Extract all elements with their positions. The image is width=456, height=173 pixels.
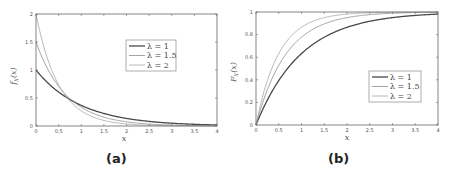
y-tick-label: 0: [30, 123, 33, 129]
x-tick-label: 3: [170, 128, 173, 134]
x-tick-label: 2.5: [366, 127, 374, 133]
chart-b-curves: [256, 12, 438, 125]
x-tick-label: 3: [391, 127, 394, 133]
chart-b-ylabel: FX(x): [229, 62, 239, 83]
y-tick-label: 1: [30, 67, 33, 73]
x-tick-label: 4: [436, 127, 439, 133]
chart-b-xlabel: x: [345, 133, 350, 142]
x-tick-label: 0.5: [275, 127, 283, 133]
x-tick-label: 2.5: [145, 128, 153, 134]
y-tick-label: 0.5: [25, 95, 33, 101]
legend-entry: λ = 1.5: [147, 51, 177, 60]
y-tick-label: 2: [30, 11, 33, 17]
y-tick-label: 0: [250, 122, 253, 128]
caption-b: (b): [328, 151, 349, 166]
y-tick-label: 1.5: [25, 39, 33, 45]
y-tick-label: 0.6: [245, 54, 253, 60]
legend-entry: λ = 2: [147, 61, 169, 70]
chart-a-ticks: 00.511.522.533.5400.511.52: [25, 11, 219, 134]
x-tick-label: 3.5: [190, 128, 198, 134]
curve-1_5: [256, 12, 438, 125]
x-tick-label: 1: [300, 127, 303, 133]
curve-1: [36, 70, 217, 125]
x-tick-label: 0: [254, 127, 257, 133]
chart-b-legend: λ = 1λ = 1.5λ = 2: [369, 71, 421, 102]
x-tick-label: 3.5: [411, 127, 419, 133]
chart-a: 00.511.522.533.5400.511.52 fX(x) x λ = 1…: [9, 11, 219, 143]
legend-entry: λ = 2: [390, 92, 412, 101]
figure-canvas: 00.511.522.533.5400.511.52 fX(x) x λ = 1…: [0, 0, 456, 173]
legend-entry: λ = 1: [390, 73, 412, 82]
legend-entry: λ = 1.5: [390, 82, 420, 91]
chart-a-xlabel: x: [122, 134, 127, 143]
curve-1: [256, 14, 438, 125]
curve-2: [256, 12, 438, 125]
chart-b: 00.511.522.533.5400.20.40.60.81 FX(x) x …: [229, 9, 440, 142]
x-tick-label: 0: [34, 128, 37, 134]
chart-a-ylabel: fX(x): [9, 67, 19, 85]
y-tick-label: 0.4: [245, 77, 253, 83]
x-tick-label: 0.5: [55, 128, 63, 134]
legend-entry: λ = 1: [147, 42, 169, 51]
x-tick-label: 1.5: [100, 128, 108, 134]
y-tick-label: 0.8: [245, 31, 253, 37]
x-tick-label: 1.5: [320, 127, 328, 133]
x-tick-label: 1: [80, 128, 83, 134]
caption-a: (a): [106, 151, 127, 166]
chart-a-legend: λ = 1λ = 1.5λ = 2: [126, 40, 177, 71]
x-tick-label: 4: [215, 128, 218, 134]
y-tick-label: 1: [250, 9, 253, 15]
chart-b-frame: [256, 12, 438, 125]
y-tick-label: 0.2: [245, 99, 253, 105]
